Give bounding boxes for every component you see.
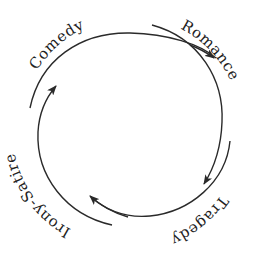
label-romance: Romance	[178, 16, 243, 83]
genre-cycle-diagram: Comedy Romance Tragedy Irony-Satire	[0, 0, 256, 260]
label-tragedy: Tragedy	[168, 193, 232, 250]
cycle-svg: Comedy Romance Tragedy Irony-Satire	[0, 0, 256, 260]
